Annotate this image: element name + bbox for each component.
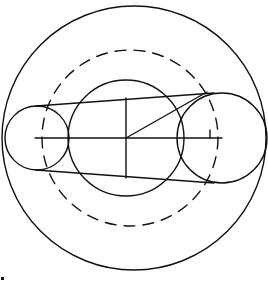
corner-mark [1, 277, 4, 280]
pulley-belt-diagram [0, 0, 268, 283]
lines-layer [35, 92, 222, 183]
belt-bottom [36, 170, 214, 183]
belt-top [36, 93, 214, 106]
